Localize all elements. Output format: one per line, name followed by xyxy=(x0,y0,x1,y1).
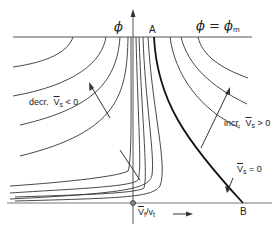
origin-marker xyxy=(131,201,136,206)
incr-sub: s xyxy=(252,122,256,129)
decr-rel: < 0 xyxy=(66,97,79,107)
right-curves xyxy=(10,37,248,201)
incr-prefix: incr. xyxy=(224,118,241,128)
incr-rel: > 0 xyxy=(258,118,271,128)
zero-label: Vs = 0 xyxy=(237,165,262,175)
decr-sub: s xyxy=(60,101,64,108)
y-axis-label: ϕ xyxy=(114,20,123,33)
zero-sub: s xyxy=(243,168,247,175)
phi-max-sub: m xyxy=(233,25,240,34)
zero-rel: = 0 xyxy=(249,164,262,174)
x-axis-label: Vf/vt xyxy=(138,208,155,218)
y-axis-arrow-icon xyxy=(131,9,136,17)
phi-max-text: ϕ = ϕ xyxy=(196,18,233,33)
point-b-label: B xyxy=(240,207,247,217)
incr-label: incr. Vs > 0 xyxy=(224,119,270,129)
phi-max-label: ϕ = ϕm xyxy=(196,19,240,34)
decr-label: decr. Vs < 0 xyxy=(29,98,78,108)
trend-arrows xyxy=(91,86,228,180)
left-curves xyxy=(10,37,145,197)
incr-arrow-icon xyxy=(225,87,230,95)
decr-prefix: decr. xyxy=(29,97,49,107)
x-axis-arrow-icon xyxy=(186,212,193,217)
point-a-label: A xyxy=(149,25,156,35)
phase-diagram xyxy=(0,0,280,232)
x-axis-den: /v xyxy=(146,207,153,217)
x-axis-den-sub: t xyxy=(153,211,155,218)
